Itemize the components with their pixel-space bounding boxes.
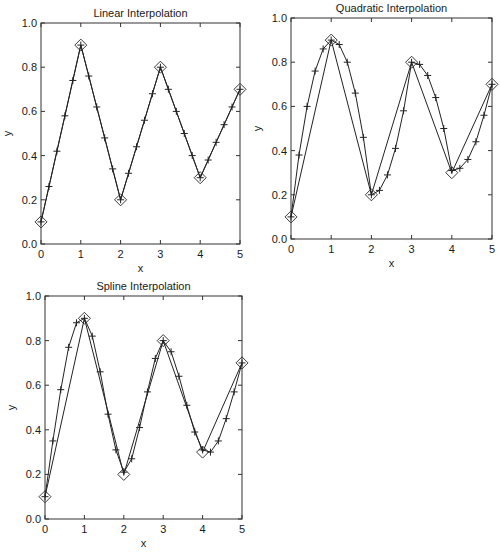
- x-tick-label: 3: [160, 523, 166, 535]
- x-tick-label: 1: [81, 523, 87, 535]
- y-tick-label: 1.0: [272, 12, 287, 24]
- y-tick-label: 0.6: [26, 379, 41, 391]
- y-tick-label: 0.2: [272, 189, 287, 201]
- chart-title: Quadratic Interpolation: [336, 2, 447, 14]
- x-axis-label: x: [389, 257, 395, 269]
- y-tick-label: 0.2: [26, 468, 41, 480]
- y-tick-label: 0.6: [272, 100, 287, 112]
- y-tick-label: 0.0: [26, 513, 41, 525]
- x-tick-label: 4: [200, 523, 206, 535]
- x-tick-label: 1: [328, 243, 334, 255]
- x-tick-label: 4: [449, 243, 455, 255]
- chart-title: Spline Interpolation: [96, 280, 190, 292]
- x-tick-label: 0: [42, 523, 48, 535]
- chart-spline-interpolation: Spline Interpolation0123450.00.20.40.60.…: [0, 0, 250, 553]
- y-tick-label: 0.8: [26, 335, 41, 347]
- y-axis-label: y: [251, 125, 263, 131]
- y-tick-label: 0.0: [272, 233, 287, 245]
- y-tick-label: 0.4: [26, 424, 41, 436]
- x-tick-label: 5: [239, 523, 245, 535]
- chart-canvas: Spline Interpolation0123450.00.20.40.60.…: [0, 0, 250, 553]
- series-line: [45, 318, 242, 496]
- series-spline-interpolated: [42, 315, 246, 500]
- x-tick-label: 2: [368, 243, 374, 255]
- x-tick-label: 3: [409, 243, 415, 255]
- y-tick-label: 1.0: [26, 290, 41, 302]
- x-tick-label: 0: [288, 243, 294, 255]
- x-tick-label: 2: [121, 523, 127, 535]
- series-line: [291, 40, 492, 217]
- y-axis-label: y: [5, 404, 17, 410]
- y-tick-label: 0.8: [272, 56, 287, 68]
- x-axis-label: x: [141, 537, 147, 549]
- x-tick-label: 5: [489, 243, 495, 255]
- series-data-points: [285, 34, 498, 223]
- y-tick-label: 0.4: [272, 145, 287, 157]
